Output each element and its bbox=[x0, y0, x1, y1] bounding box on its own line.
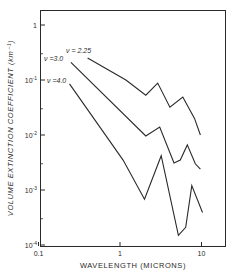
y-tick-label: 10-4 bbox=[25, 240, 37, 249]
series-label-0: ν = 2.25 bbox=[66, 47, 91, 54]
x-axis-ticks: 0.1110 bbox=[34, 242, 206, 257]
series-line-0 bbox=[88, 58, 201, 135]
y-tick-label: 10-3 bbox=[25, 185, 37, 194]
series-label-2: ν =4.0 bbox=[47, 77, 66, 84]
series-labels: ν = 2.25ν =3.0ν =4.0 bbox=[44, 47, 91, 84]
series-lines bbox=[70, 58, 203, 235]
series-line-2 bbox=[70, 84, 203, 235]
y-axis-ticks: 110-110-210-310-4 bbox=[25, 22, 45, 249]
y-tick-label: 1 bbox=[33, 22, 37, 29]
series-line-1 bbox=[71, 62, 201, 169]
extinction-chart: 0.1110 110-110-210-310-4 ν = 2.25ν =3.0ν… bbox=[0, 0, 235, 276]
x-tick-label: 10 bbox=[198, 250, 206, 257]
series-label-1: ν =3.0 bbox=[44, 55, 63, 62]
y-tick-label: 10-2 bbox=[25, 130, 37, 139]
x-axis-title: WAVELENGTH (MICRONS) bbox=[80, 261, 186, 270]
y-tick-label: 10-1 bbox=[25, 75, 37, 84]
x-tick-label: 1 bbox=[118, 250, 122, 257]
x-tick-label: 0.1 bbox=[34, 250, 44, 257]
y-axis-title: VOLUME EXTINCTION COEFFICIENT (km⁻¹) bbox=[6, 40, 15, 216]
